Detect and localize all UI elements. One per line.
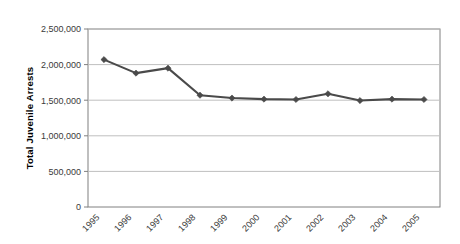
y-axis-tick-label: 500,000 (48, 167, 81, 177)
y-axis-title: Total Juvenile Arrests (24, 67, 35, 170)
y-axis-tick-label: 2,000,000 (41, 60, 81, 70)
y-axis-tick-label: 1,000,000 (41, 131, 81, 141)
y-axis-tick-label: 0 (76, 202, 81, 212)
plot-area-border (88, 29, 440, 207)
chart-container: 0500,0001,000,0001,500,0002,000,0002,500… (0, 0, 460, 244)
y-axis-tick-label: 1,500,000 (41, 96, 81, 106)
line-chart: 0500,0001,000,0001,500,0002,000,0002,500… (0, 0, 460, 244)
plot-area (88, 29, 440, 207)
y-axis-tick-label: 2,500,000 (41, 24, 81, 34)
y-axis-title-group: Total Juvenile Arrests (24, 67, 35, 170)
